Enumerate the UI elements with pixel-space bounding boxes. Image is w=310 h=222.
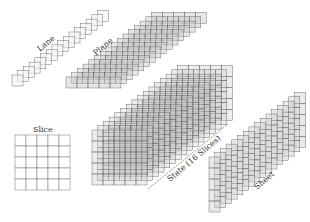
slice-label: Slice <box>33 125 53 134</box>
diagram-svg: Lane Plane Slice State (16 Slices) Sheet <box>0 0 310 222</box>
slice-grid <box>15 135 70 190</box>
keccak-state-diagram: Lane Plane Slice State (16 Slices) Sheet <box>0 0 310 222</box>
